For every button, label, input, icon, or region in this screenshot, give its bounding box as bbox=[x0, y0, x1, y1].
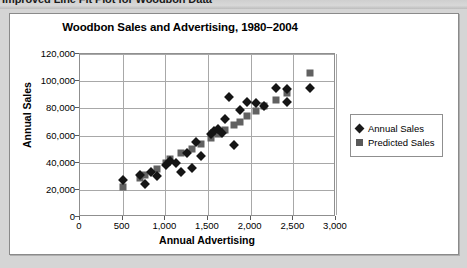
data-point-diamond bbox=[140, 179, 150, 189]
x-axis-tick-label: 1,000 bbox=[152, 220, 176, 231]
y-axis-tick-label: 60,000 bbox=[46, 129, 75, 140]
data-point-square bbox=[252, 108, 259, 115]
chart-panel: Woodbon Sales and Advertising, 1980–2004… bbox=[9, 13, 459, 255]
x-axis-tick-label: 500 bbox=[114, 220, 130, 231]
x-axis-tick-labels: 05001,0001,5002,0002,5003,000 bbox=[79, 220, 335, 234]
data-point-diamond bbox=[282, 97, 292, 107]
data-point-square bbox=[273, 97, 280, 104]
diamond-marker-icon bbox=[355, 124, 365, 134]
gridline-vertical bbox=[123, 54, 124, 215]
data-point-diamond bbox=[196, 151, 206, 161]
y-axis-tick-label: 40,000 bbox=[46, 156, 75, 167]
legend-item-predicted-sales: Predicted Sales bbox=[356, 137, 435, 148]
data-point-diamond bbox=[305, 83, 315, 93]
x-axis-tick-label: 3,000 bbox=[323, 220, 347, 231]
data-point-diamond bbox=[229, 140, 239, 150]
gridline-horizontal bbox=[80, 190, 334, 191]
data-point-square bbox=[307, 70, 314, 77]
chart-title: Woodbon Sales and Advertising, 1980–2004 bbox=[10, 21, 350, 33]
x-axis-tick-label: 1,500 bbox=[195, 220, 219, 231]
square-marker-icon bbox=[356, 139, 363, 146]
gridline-vertical bbox=[336, 54, 337, 215]
gridline-vertical bbox=[293, 54, 294, 215]
legend-label: Predicted Sales bbox=[368, 137, 435, 148]
gridline-vertical bbox=[251, 54, 252, 215]
data-point-diamond bbox=[220, 114, 230, 124]
plot-area bbox=[79, 53, 335, 216]
gridline-horizontal bbox=[80, 108, 334, 109]
y-axis-tick-label: 20,000 bbox=[46, 183, 75, 194]
y-axis-tick-label: 100,000 bbox=[41, 75, 75, 86]
gridline-horizontal bbox=[80, 81, 334, 82]
y-axis-tick-labels: 020,00040,00060,00080,000100,000120,000 bbox=[10, 53, 75, 216]
x-axis-tick-label: 0 bbox=[76, 220, 81, 231]
chart-legend: Annual Sales Predicted Sales bbox=[350, 114, 443, 157]
y-axis-tick-label: 120,000 bbox=[41, 48, 75, 59]
gridline-horizontal bbox=[80, 54, 334, 55]
legend-label: Annual Sales bbox=[368, 123, 424, 134]
x-axis-tick-label: 2,500 bbox=[280, 220, 304, 231]
data-point-diamond bbox=[176, 167, 186, 177]
document-heading-text: Improved Line Fit Plot for Woodbon Data bbox=[2, 0, 212, 5]
gridline-vertical bbox=[165, 54, 166, 215]
data-point-diamond bbox=[271, 83, 281, 93]
data-point-diamond bbox=[224, 93, 234, 103]
y-axis-tick-label: 80,000 bbox=[46, 102, 75, 113]
gridline-horizontal bbox=[80, 163, 334, 164]
x-axis-label: Annual Advertising bbox=[79, 234, 335, 246]
x-axis-tick-label: 2,000 bbox=[238, 220, 262, 231]
legend-item-annual-sales: Annual Sales bbox=[356, 123, 435, 134]
data-point-square bbox=[244, 113, 251, 120]
document-heading-strip: Improved Line Fit Plot for Woodbon Data bbox=[0, 0, 467, 9]
data-point-diamond bbox=[187, 163, 197, 173]
